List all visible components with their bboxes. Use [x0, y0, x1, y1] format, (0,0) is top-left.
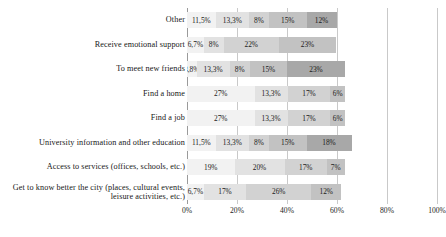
bar-segment[interactable]: 6,7%	[187, 37, 204, 53]
bar-row: Get to know better the city (places, cul…	[0, 180, 444, 205]
bar-segment[interactable]: 12%	[311, 184, 341, 200]
bar-segment[interactable]: 15%	[269, 135, 307, 151]
bar-segment[interactable]: 8%	[230, 61, 250, 77]
bar-row: Find a job27%13,3%17%6%	[0, 106, 444, 131]
bar-segment[interactable]: 11,5%	[187, 12, 216, 28]
chart-footnote	[24, 229, 434, 237]
bar-segment[interactable]: 6%	[330, 110, 345, 126]
bar-segment[interactable]: 17%	[285, 159, 328, 175]
category-label: To meet new friends	[2, 65, 185, 74]
stacked-bar[interactable]: 27%13,3%17%6%	[187, 110, 345, 126]
bar-segment[interactable]: 6,7%	[187, 184, 204, 200]
bar-row: Access to services (offices, schools, et…	[0, 155, 444, 180]
bar-track: 27%13,3%17%6%	[187, 106, 437, 131]
bar-segment[interactable]: 22%	[224, 37, 279, 53]
stacked-bar[interactable]: 3,8%13,3%8%15%23%	[187, 61, 345, 77]
bar-track: 27%13,3%17%6%	[187, 82, 437, 107]
x-tick-label: 80%	[380, 206, 394, 215]
stacked-bar[interactable]: 6,7%17%26%12%	[187, 184, 341, 200]
bar-segment[interactable]: 12%	[307, 12, 337, 28]
bar-segment[interactable]: 19%	[187, 159, 235, 175]
bar-segment[interactable]: 3,8%	[187, 61, 197, 77]
x-axis: 0%20%40%60%80%100%	[187, 206, 437, 218]
bar-track: 19%20%17%7%	[187, 155, 437, 180]
bar-track: 6,7%17%26%12%	[187, 180, 437, 205]
category-label: Get to know better the city (places, cul…	[2, 182, 185, 201]
bar-track: 11,5%13,3%8%15%18%	[187, 131, 437, 156]
bar-segment[interactable]: 7%	[327, 159, 345, 175]
bar-segment[interactable]: 8%	[204, 37, 224, 53]
bar-row: Receive emotional support6,7%8%22%23%	[0, 33, 444, 58]
plot-area: Other11,5%13,3%8%15%12%Receive emotional…	[0, 8, 444, 204]
bar-segment[interactable]: 23%	[279, 37, 337, 53]
stacked-bar[interactable]: 11,5%13,3%8%15%12%	[187, 12, 337, 28]
bar-segment[interactable]: 6%	[330, 86, 345, 102]
bar-track: 11,5%13,3%8%15%12%	[187, 8, 437, 33]
stacked-bar[interactable]: 19%20%17%7%	[187, 159, 345, 175]
bar-row: University information and other educati…	[0, 131, 444, 156]
category-label: University information and other educati…	[2, 138, 185, 147]
x-tick-label: 60%	[330, 206, 344, 215]
bar-segment[interactable]: 8%	[249, 135, 269, 151]
bar-row: Find a home27%13,3%17%6%	[0, 82, 444, 107]
bar-segment[interactable]: 17%	[204, 184, 247, 200]
bar-segment[interactable]: 15%	[250, 61, 288, 77]
category-label: Find a job	[2, 114, 185, 123]
bar-segment[interactable]: 8%	[249, 12, 269, 28]
category-label: Other	[2, 16, 185, 25]
x-tick-label: 40%	[280, 206, 294, 215]
stacked-bar[interactable]: 27%13,3%17%6%	[187, 86, 345, 102]
bar-segment[interactable]: 13,3%	[255, 110, 288, 126]
x-tick-label: 0%	[182, 206, 192, 215]
bar-segment[interactable]: 13,3%	[197, 61, 230, 77]
x-tick-label: 20%	[230, 206, 244, 215]
category-label: Receive emotional support	[2, 40, 185, 49]
bar-rows: Other11,5%13,3%8%15%12%Receive emotional…	[0, 8, 444, 204]
category-label: Find a home	[2, 89, 185, 98]
bar-segment[interactable]: 17%	[288, 86, 331, 102]
bar-segment[interactable]: 27%	[187, 110, 255, 126]
bar-row: To meet new friends3,8%13,3%8%15%23%	[0, 57, 444, 82]
category-label: Access to services (offices, schools, et…	[2, 163, 185, 172]
bar-segment[interactable]: 17%	[288, 110, 331, 126]
bar-segment[interactable]: 11,5%	[187, 135, 216, 151]
bar-segment[interactable]: 18%	[307, 135, 352, 151]
bar-segment[interactable]: 13,3%	[216, 12, 249, 28]
bar-segment[interactable]: 13,3%	[255, 86, 288, 102]
bar-segment[interactable]: 26%	[246, 184, 311, 200]
x-tick-label: 100%	[428, 206, 446, 215]
bar-segment[interactable]: 27%	[187, 86, 255, 102]
bar-track: 3,8%13,3%8%15%23%	[187, 57, 437, 82]
bar-row: Other11,5%13,3%8%15%12%	[0, 8, 444, 33]
bar-segment[interactable]: 20%	[235, 159, 285, 175]
bar-segment[interactable]: 15%	[269, 12, 307, 28]
stacked-bar[interactable]: 6,7%8%22%23%	[187, 37, 336, 53]
bar-segment[interactable]: 13,3%	[216, 135, 249, 151]
bar-segment[interactable]: 23%	[287, 61, 345, 77]
stacked-bar[interactable]: 11,5%13,3%8%15%18%	[187, 135, 352, 151]
bar-track: 6,7%8%22%23%	[187, 33, 437, 58]
